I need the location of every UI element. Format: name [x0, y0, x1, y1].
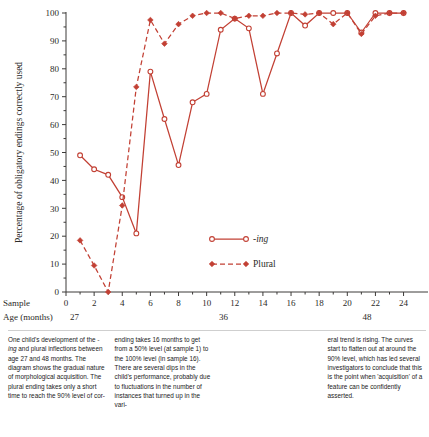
data-point-marker	[260, 13, 266, 19]
y-axis-label: Percentage of obligatory endings correct…	[14, 62, 24, 243]
caption-column-4: eral trend is rising. The curves start t…	[328, 335, 427, 433]
legend-marker	[210, 237, 215, 242]
y-tick-label: 40	[50, 176, 60, 186]
data-point-marker	[204, 92, 209, 97]
data-point-marker	[77, 238, 83, 244]
data-point-marker	[134, 231, 139, 236]
x-axis-sample-label: Sample	[3, 298, 30, 308]
data-point-marker	[274, 10, 280, 16]
legend-label-Plural: Plural	[253, 259, 276, 269]
x-tick-label: 8	[176, 298, 181, 308]
data-point-marker	[218, 10, 224, 16]
x-tick-label: 22	[371, 298, 380, 308]
data-point-marker	[246, 13, 252, 19]
y-tick-label: 10	[50, 259, 60, 269]
y-tick-label: 20	[50, 231, 60, 241]
x-age-tick-label: 27	[70, 312, 80, 322]
caption-column-2: ending takes 16 months to get from a 50%…	[115, 335, 214, 433]
legend-marker	[244, 237, 249, 242]
x-tick-label: 18	[315, 298, 325, 308]
x-tick-label: 16	[287, 298, 297, 308]
data-point-marker	[78, 153, 83, 158]
data-point-marker	[246, 26, 251, 31]
data-series-group	[77, 10, 406, 295]
y-tick-label: 0	[55, 287, 60, 297]
data-point-marker	[148, 69, 153, 74]
data-point-marker	[302, 12, 308, 18]
data-point-marker	[275, 51, 280, 56]
x-axis: 024681012141618202224SampleAge (months)2…	[3, 292, 428, 322]
caption-text-4: eral trend is rising. The curves start t…	[328, 335, 427, 400]
data-point-marker	[105, 289, 111, 295]
legend-marker	[243, 261, 249, 267]
x-tick-label: 14	[258, 298, 268, 308]
x-age-tick-label: 48	[362, 312, 372, 322]
y-axis-title: Percentage of obligatory endings correct…	[14, 62, 24, 243]
data-point-marker	[261, 92, 266, 97]
x-axis-age-label: Age (months)	[3, 312, 53, 322]
figure-chart: 0102030405060708090100 02468101214161820…	[0, 0, 429, 330]
x-age-tick-label: 36	[219, 312, 229, 322]
caption-text-2: ending takes 16 months to get from a 50%…	[115, 335, 214, 410]
data-point-marker	[303, 23, 308, 28]
data-point-marker	[92, 167, 97, 172]
data-point-marker	[162, 117, 167, 122]
data-point-marker	[218, 27, 223, 32]
data-point-marker	[176, 163, 181, 168]
caption-1-post: and plural inflections between age 27 an…	[8, 345, 105, 399]
y-tick-label: 80	[50, 64, 60, 74]
x-tick-label: 0	[64, 298, 69, 308]
series-line-ing	[80, 13, 403, 233]
x-tick-label: 12	[230, 298, 239, 308]
series-line-Plural	[80, 13, 403, 292]
y-axis: 0102030405060708090100	[46, 8, 67, 297]
data-point-marker	[190, 100, 195, 105]
line-chart-svg: 0102030405060708090100 02468101214161820…	[0, 0, 429, 330]
caption-column-1: One child's development of the -ing and …	[8, 335, 107, 433]
x-tick-label: 10	[202, 298, 212, 308]
legend-marker	[209, 261, 215, 267]
data-point-marker	[331, 11, 336, 16]
chart-legend: -ingPlural	[209, 234, 276, 269]
x-tick-label: 24	[399, 298, 409, 308]
data-point-marker	[176, 21, 182, 27]
y-tick-label: 30	[50, 204, 60, 214]
y-tick-label: 50	[50, 148, 60, 158]
x-tick-label: 4	[120, 298, 125, 308]
legend-label-ing: -ing	[253, 234, 269, 244]
caption-1-pre: One child's development of the	[8, 336, 97, 343]
data-point-marker	[91, 263, 97, 269]
caption-divider	[8, 330, 426, 331]
data-point-marker	[106, 172, 111, 177]
caption-column-3	[221, 335, 320, 433]
x-tick-label: 6	[148, 298, 153, 308]
caption-text-1: One child's development of the -ing and …	[8, 335, 107, 400]
data-point-marker	[204, 10, 210, 16]
y-tick-label: 90	[50, 36, 60, 46]
data-point-marker	[134, 84, 140, 90]
figure-caption: One child's development of the -ing and …	[8, 335, 426, 433]
data-point-marker	[148, 17, 154, 23]
data-point-marker	[190, 13, 196, 19]
x-tick-label: 20	[343, 298, 353, 308]
y-tick-label: 100	[46, 8, 60, 18]
y-tick-label: 70	[50, 92, 60, 102]
y-tick-label: 60	[50, 120, 60, 130]
x-tick-label: 2	[92, 298, 97, 308]
